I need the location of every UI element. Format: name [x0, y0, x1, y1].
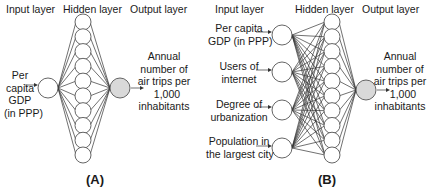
edge	[58, 88, 76, 155]
edge	[90, 88, 110, 155]
input-label-line: Users of	[208, 60, 270, 73]
panel-a-hidden-layer-header: Hidden layer	[63, 3, 122, 16]
panel-b-input-layer-header: Input layer	[215, 3, 264, 16]
hidden-node	[324, 44, 340, 60]
input-label-line: GDP	[4, 94, 36, 107]
output-label-line: air trips per	[131, 75, 197, 88]
hidden-node	[75, 29, 91, 45]
edge	[339, 37, 356, 90]
hidden-node	[324, 58, 340, 74]
panel-b-hidden-layer-header: Hidden layer	[295, 3, 354, 16]
input-label-line: Per capita	[208, 22, 270, 35]
input-label-line: internet	[208, 73, 270, 86]
panel-a-input-label: Per capita GDP (in PPP)	[4, 69, 36, 119]
hidden-node	[75, 147, 91, 163]
input-node	[38, 78, 58, 98]
hidden-node	[324, 147, 340, 163]
hidden-node	[324, 88, 340, 104]
output-label-line: air trips per	[372, 75, 428, 88]
input-label-line: the largest city	[206, 148, 272, 161]
output-label-line: number of	[131, 63, 197, 76]
edge	[292, 52, 325, 110]
panel-b-output-label: Annual number of air trips per 1,000 inh…	[372, 50, 428, 113]
edge	[339, 90, 356, 140]
edge	[58, 37, 76, 88]
edge	[90, 37, 110, 88]
output-label-line: number of	[372, 63, 428, 76]
edge	[292, 140, 325, 148]
hidden-node	[324, 132, 340, 148]
panel-b-label: (B)	[318, 172, 336, 187]
input-node	[272, 138, 292, 158]
input-label-line: GDP (in PPP)	[208, 35, 270, 48]
panel-a-label: (A)	[86, 172, 104, 187]
input-node	[272, 62, 292, 82]
edge	[58, 22, 76, 88]
edge	[90, 88, 110, 140]
hidden-node	[75, 73, 91, 89]
output-label-line: 1,000	[131, 88, 197, 101]
hidden-node	[75, 44, 91, 60]
input-label-line: capita	[4, 82, 36, 95]
hidden-node	[75, 58, 91, 74]
hidden-node	[324, 73, 340, 89]
edge	[339, 90, 356, 155]
panel-b-input-label-urbanization: Degree of urbanization	[208, 98, 270, 123]
hidden-node	[75, 103, 91, 119]
edge	[292, 148, 325, 155]
input-label-line: Population in	[206, 135, 272, 148]
input-label-line: (in PPP)	[4, 107, 36, 120]
panel-b-input-label-internet: Users of internet	[208, 60, 270, 85]
hidden-node	[324, 103, 340, 119]
hidden-node	[324, 117, 340, 133]
output-label-line: 1,000	[372, 88, 428, 101]
edge	[90, 88, 110, 96]
hidden-node	[75, 132, 91, 148]
edge	[90, 88, 110, 125]
panel-b-input-label-population: Population in the largest city	[206, 135, 272, 160]
output-node	[110, 78, 130, 98]
edge	[339, 22, 356, 90]
output-label-line: Annual	[131, 50, 197, 63]
hidden-node	[75, 88, 91, 104]
panel-b-input-label-gdp: Per capita GDP (in PPP)	[208, 22, 270, 47]
output-label-line: Annual	[372, 50, 428, 63]
panel-a-output-label: Annual number of air trips per 1,000 inh…	[131, 50, 197, 113]
hidden-node	[324, 29, 340, 45]
edge	[58, 88, 76, 140]
panel-a-output-layer-header: Output layer	[130, 3, 187, 16]
edge	[292, 110, 325, 111]
input-label-line: Degree of	[208, 98, 270, 111]
output-label-line: inhabitants	[372, 100, 428, 113]
panel-a-input-layer-header: Input layer	[6, 3, 55, 16]
panel-b-output-layer-header: Output layer	[362, 3, 419, 16]
output-label-line: inhabitants	[131, 100, 197, 113]
hidden-node	[75, 117, 91, 133]
edge	[90, 22, 110, 88]
hidden-node	[324, 14, 340, 30]
input-label-line: Per	[4, 69, 36, 82]
edge	[339, 66, 356, 90]
hidden-node	[75, 14, 91, 30]
input-node	[272, 25, 292, 45]
input-label-line: urbanization	[208, 111, 270, 124]
edge	[292, 22, 325, 35]
input-node	[272, 100, 292, 120]
